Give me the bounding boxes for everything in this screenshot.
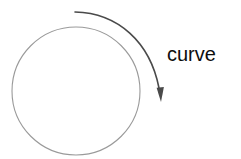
curve-figure	[0, 0, 241, 159]
diagram-canvas: curve	[0, 0, 241, 159]
outline-circle	[12, 27, 140, 155]
arrowhead-icon	[157, 87, 164, 102]
curve-label: curve	[167, 44, 216, 64]
curved-arrow-shaft	[75, 12, 159, 88]
